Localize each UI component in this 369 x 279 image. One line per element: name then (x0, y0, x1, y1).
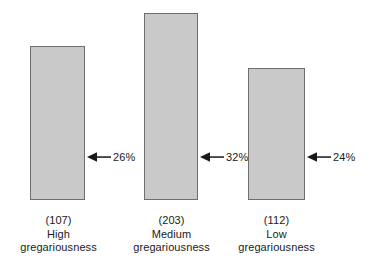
category-name-low-line2: gregariousness (218, 241, 335, 255)
bar-low-gregariousness (248, 68, 305, 200)
bar-chart: 26% (107) High gregariousness 32% (203) … (0, 0, 369, 279)
category-label-medium-gregariousness: (203) Medium gregariousness (113, 214, 230, 255)
category-name-high-line2: gregariousness (0, 241, 117, 255)
category-name-medium-line2: gregariousness (113, 241, 230, 255)
count-label-medium: (203) (113, 214, 230, 228)
category-label-low-gregariousness: (112) Low gregariousness (218, 214, 335, 255)
count-label-low: (112) (218, 214, 335, 228)
left-arrow-icon (306, 151, 332, 163)
value-label-high: 26% (113, 152, 135, 163)
count-label-high: (107) (0, 214, 117, 228)
category-name-high-line1: High (0, 228, 117, 242)
bar-high-gregariousness (30, 46, 85, 200)
left-arrow-icon (86, 151, 112, 163)
value-label-medium: 32% (226, 152, 248, 163)
category-name-low-line1: Low (218, 228, 335, 242)
bar-medium-gregariousness (144, 13, 198, 200)
callout-medium-gregariousness: 32% (199, 149, 248, 165)
category-name-medium-line1: Medium (113, 228, 230, 242)
callout-low-gregariousness: 24% (306, 149, 355, 165)
callout-high-gregariousness: 26% (86, 149, 135, 165)
category-label-high-gregariousness: (107) High gregariousness (0, 214, 117, 255)
left-arrow-icon (199, 151, 225, 163)
value-label-low: 24% (333, 152, 355, 163)
